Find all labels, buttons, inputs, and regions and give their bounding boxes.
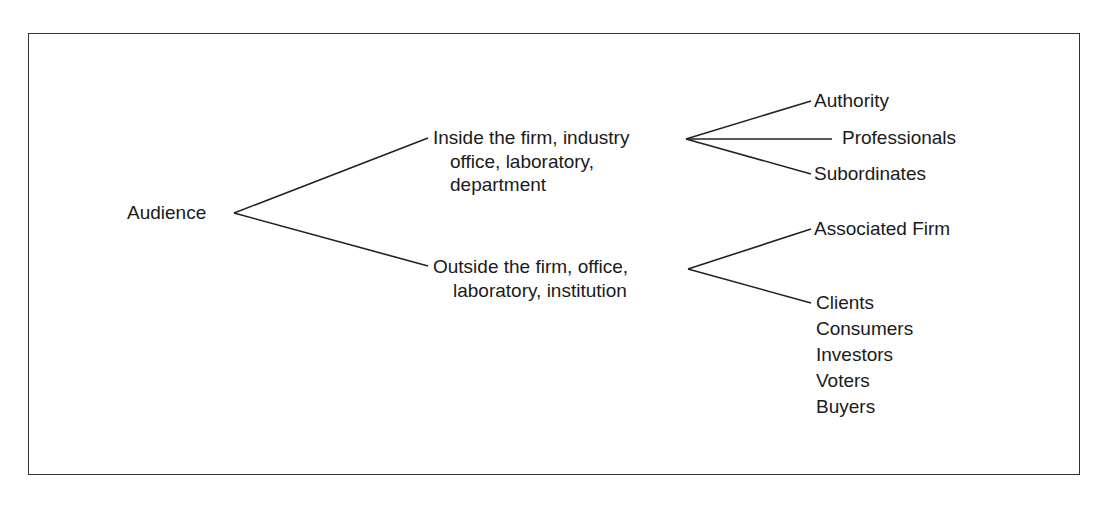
node-inside-line2: office, laboratory, (450, 151, 594, 173)
node-inside-line3: department (450, 174, 546, 196)
root-node-audience: Audience (127, 202, 206, 224)
leaf-authority: Authority (814, 90, 889, 112)
leaf-investors: Investors (816, 344, 893, 366)
connector-lines (0, 0, 1107, 507)
leaf-consumers: Consumers (816, 318, 913, 340)
node-outside-line1: Outside the firm, office, (433, 256, 628, 278)
node-inside-line1: Inside the firm, industry (433, 127, 629, 149)
leaf-professionals: Professionals (842, 127, 956, 149)
leaf-clients: Clients (816, 292, 874, 314)
leaf-subordinates: Subordinates (814, 163, 926, 185)
leaf-associated-firm: Associated Firm (814, 218, 950, 240)
leaf-buyers: Buyers (816, 396, 875, 418)
leaf-voters: Voters (816, 370, 870, 392)
node-outside-line2: laboratory, institution (453, 280, 627, 302)
